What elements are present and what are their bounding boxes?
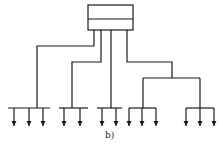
branch-2 — [59, 30, 101, 126]
branch-1 — [8, 30, 94, 126]
source-box — [88, 5, 133, 30]
figure-caption: b) — [105, 130, 114, 140]
branch-4 — [127, 30, 214, 126]
